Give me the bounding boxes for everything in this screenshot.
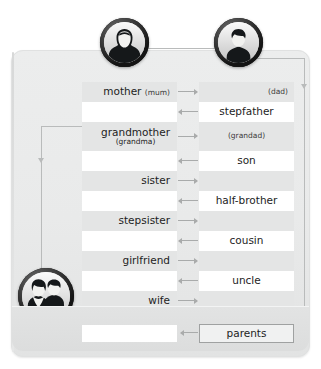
left-term-main: mother — [103, 85, 141, 97]
parents-label: parents — [227, 328, 267, 340]
table-row: mother (mum)(dad) — [82, 82, 294, 102]
arrow-left-icon — [179, 200, 198, 201]
arrow-left-icon — [179, 160, 198, 161]
connector-right-vertical — [304, 58, 305, 333]
left-term-cell[interactable] — [82, 231, 177, 251]
left-term-cell[interactable] — [82, 191, 177, 211]
arrow-gap — [177, 271, 199, 291]
connector-left-vertical — [41, 126, 42, 274]
right-term-cell[interactable]: (dad) — [199, 82, 294, 102]
left-term-cell[interactable]: stepsister — [82, 211, 177, 231]
parents-arrow-left — [181, 332, 198, 333]
connector-grandmother-left — [41, 126, 84, 127]
right-term-cell[interactable]: stepfather — [199, 102, 294, 122]
arrow-left-icon — [179, 240, 198, 241]
right-term-label: cousin — [230, 235, 264, 247]
left-term-cell[interactable] — [82, 151, 177, 171]
left-term-cell[interactable] — [82, 271, 177, 291]
right-term-label: half-brother — [216, 195, 278, 207]
right-term-label: (dad) — [268, 88, 288, 96]
arrow-gap — [177, 191, 199, 211]
male-avatar-glyph — [218, 22, 259, 63]
avatar-disc — [104, 22, 145, 63]
right-term-cell[interactable]: cousin — [199, 231, 294, 251]
arrow-left-icon — [179, 280, 198, 281]
connector-mother-to-father — [148, 48, 215, 49]
table-row: stepsister — [82, 211, 294, 231]
left-term-label: grandmother(grandma) — [101, 126, 170, 147]
arrow-gap — [177, 231, 199, 251]
arrow-right-icon — [178, 300, 197, 301]
left-term-alt: (grandma) — [116, 138, 156, 147]
arrow-gap — [177, 251, 199, 271]
table-row: stepfather — [82, 102, 294, 122]
arrow-gap — [177, 102, 199, 122]
diagram-canvas: mother (mum)(dad)stepfathergrandmother(g… — [0, 0, 321, 369]
right-term-cell[interactable] — [199, 211, 294, 231]
left-term-label: sister — [141, 175, 170, 187]
table-row: cousin — [82, 231, 294, 251]
left-term-main: stepsister — [119, 214, 170, 226]
table-row: girlfriend — [82, 251, 294, 271]
avatar-disc — [218, 22, 259, 63]
table-row: grandmother(grandma)(grandad) — [82, 122, 294, 151]
parents-box[interactable]: parents — [199, 324, 294, 343]
arrow-right-icon — [178, 91, 197, 92]
left-term-main: wife — [148, 294, 170, 306]
table-row: son — [82, 151, 294, 171]
female-avatar-glyph — [104, 22, 145, 63]
right-term-cell[interactable]: (grandad) — [199, 122, 294, 151]
arrow-gap — [177, 211, 199, 231]
left-term-cell[interactable] — [82, 102, 177, 122]
left-term-alt: (mum) — [145, 88, 170, 97]
arrow-gap — [177, 82, 199, 102]
right-term-cell[interactable]: son — [199, 151, 294, 171]
right-term-label: stepfather — [219, 106, 273, 118]
left-term-label: mother (mum) — [103, 86, 170, 98]
arrow-right-icon — [178, 136, 197, 137]
arrow-left-icon — [179, 111, 198, 112]
family-terms-table: mother (mum)(dad)stepfathergrandmother(g… — [82, 82, 294, 311]
connector-left-arrowhead — [38, 158, 44, 163]
left-term-main: sister — [141, 174, 170, 186]
left-term-label: girlfriend — [122, 255, 170, 267]
right-term-cell[interactable] — [199, 251, 294, 271]
right-term-cell[interactable]: uncle — [199, 271, 294, 291]
right-term-cell[interactable] — [199, 171, 294, 191]
arrow-gap — [177, 151, 199, 171]
table-row: half-brother — [82, 191, 294, 211]
empty-answer-box[interactable] — [82, 325, 177, 342]
right-term-cell[interactable]: half-brother — [199, 191, 294, 211]
left-term-main: girlfriend — [122, 254, 170, 266]
right-term-label: son — [237, 155, 256, 167]
left-term-label: stepsister — [119, 215, 170, 227]
arrow-right-icon — [178, 220, 197, 221]
left-term-cell[interactable]: grandmother(grandma) — [82, 122, 177, 151]
arrow-right-icon — [178, 260, 197, 261]
female-avatar-icon[interactable] — [100, 18, 149, 67]
male-avatar-icon[interactable] — [214, 18, 263, 67]
left-term-cell[interactable]: mother (mum) — [82, 82, 177, 102]
right-term-label: (grandad) — [228, 132, 265, 140]
table-row: sister — [82, 171, 294, 191]
connector-right-arrowhead — [301, 84, 307, 89]
arrow-gap — [177, 171, 199, 191]
arrow-gap — [177, 122, 199, 151]
right-term-label: uncle — [232, 275, 260, 287]
arrow-right-icon — [178, 180, 197, 181]
left-term-cell[interactable]: girlfriend — [82, 251, 177, 271]
left-term-cell[interactable]: sister — [82, 171, 177, 191]
table-row: uncle — [82, 271, 294, 291]
